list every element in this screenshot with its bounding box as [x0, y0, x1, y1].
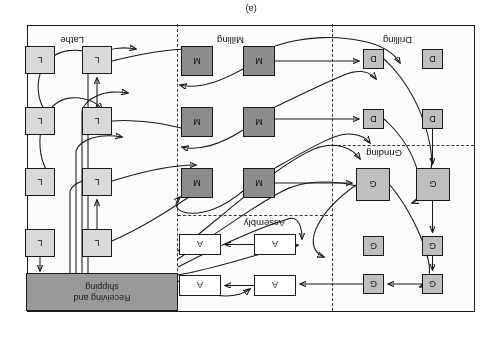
- machine-label: L: [95, 177, 100, 187]
- machine-label: M: [193, 56, 201, 66]
- machine-label: G: [430, 180, 437, 190]
- machine-box-l6: L: [25, 107, 55, 135]
- machine-box-g6: G: [356, 168, 390, 201]
- machine-label: A: [197, 281, 203, 291]
- machine-label: L: [38, 238, 43, 248]
- machine-label: G: [429, 241, 436, 251]
- machine-box-g4: G: [363, 236, 384, 256]
- machine-label: M: [193, 117, 201, 127]
- dashed-boundary-drilling-grinding: [333, 145, 474, 146]
- machine-box-a4: A: [179, 234, 221, 255]
- machine-box-g1: G: [422, 274, 443, 294]
- department-label-assembly: Assembly: [244, 218, 285, 229]
- machine-label: G: [370, 241, 377, 251]
- machine-box-a2: A: [179, 275, 221, 296]
- machine-box-m1: M: [243, 168, 275, 198]
- machine-box-l4: L: [25, 168, 55, 196]
- machine-label: L: [95, 55, 100, 65]
- machine-label: L: [95, 238, 100, 248]
- machine-label: A: [272, 240, 278, 250]
- machine-label: L: [38, 177, 43, 187]
- machine-box-d3: D: [422, 49, 443, 69]
- machine-box-m6: M: [181, 46, 213, 76]
- plant-layout-frame: Receiving and shipping: [27, 25, 475, 312]
- machine-label: L: [38, 55, 43, 65]
- banner-line-1: Receiving and: [73, 292, 130, 303]
- machine-label: A: [197, 240, 203, 250]
- dashed-boundary-milling-assembly: [178, 215, 333, 216]
- figure-rotator: Receiving and shipping: [0, 0, 502, 337]
- machine-label: D: [429, 54, 436, 64]
- machine-label: L: [95, 116, 100, 126]
- machine-box-m2: M: [181, 168, 213, 198]
- machine-label: A: [272, 281, 278, 291]
- dashed-boundary-drilling-milling: [332, 24, 333, 311]
- machine-box-g3: G: [422, 236, 443, 256]
- machine-box-l1: L: [82, 229, 112, 257]
- machine-box-g5: G: [416, 168, 450, 201]
- machine-box-m3: M: [243, 107, 275, 137]
- machine-label: M: [255, 178, 263, 188]
- department-label-grinding: Grinding: [366, 148, 402, 159]
- machine-label: D: [370, 54, 377, 64]
- machine-box-m5: M: [243, 46, 275, 76]
- department-label-lathe: Lathe: [60, 35, 84, 46]
- machine-box-m4: M: [181, 107, 213, 137]
- banner-line-2: shipping: [73, 281, 130, 292]
- machine-label: L: [38, 116, 43, 126]
- machine-box-l5: L: [82, 107, 112, 135]
- machine-label: M: [255, 56, 263, 66]
- department-label-milling: Milling: [217, 35, 244, 46]
- figure-caption: (a): [0, 4, 502, 14]
- machine-box-d4: D: [363, 49, 384, 69]
- machine-label: D: [370, 114, 377, 124]
- machine-label: D: [429, 114, 436, 124]
- machine-box-a1: A: [254, 275, 296, 296]
- machine-label: M: [255, 117, 263, 127]
- machine-box-l8: L: [25, 46, 55, 74]
- machine-box-a3: A: [254, 234, 296, 255]
- receiving-and-shipping-banner: Receiving and shipping: [26, 273, 178, 311]
- machine-label: G: [429, 279, 436, 289]
- machine-box-l3: L: [82, 168, 112, 196]
- machine-label: G: [370, 279, 377, 289]
- machine-label: G: [370, 180, 377, 190]
- dashed-boundary-milling-lathe: [177, 24, 178, 311]
- machine-box-l7: L: [82, 46, 112, 74]
- department-label-drilling: Drilling: [383, 35, 412, 46]
- machine-label: M: [193, 178, 201, 188]
- machine-box-d1: D: [422, 109, 443, 129]
- machine-box-l2: L: [25, 229, 55, 257]
- machine-box-g2: G: [363, 274, 384, 294]
- machine-box-d2: D: [363, 109, 384, 129]
